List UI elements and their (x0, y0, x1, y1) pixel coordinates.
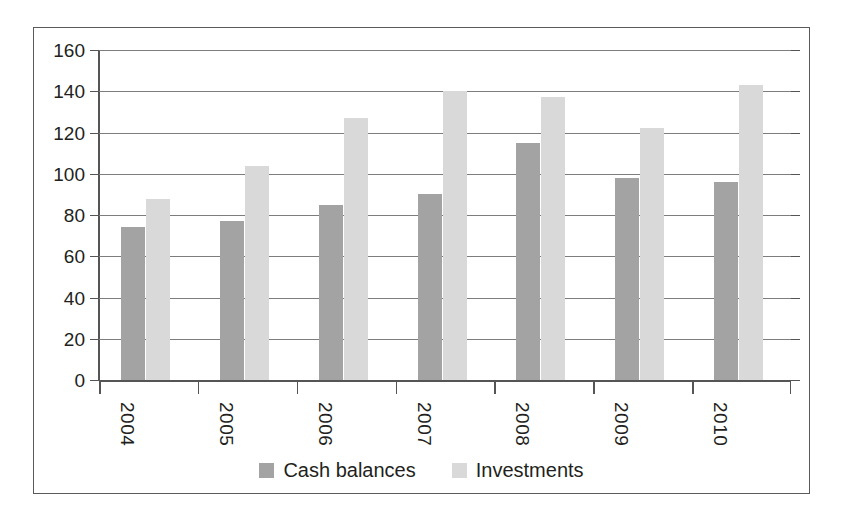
bar-investments-2005 (245, 166, 269, 381)
y-tick-mark-right (791, 174, 800, 175)
y-axis-tick-label: 80 (64, 206, 85, 225)
y-tick-mark-right (791, 215, 800, 216)
y-tick-mark (90, 256, 99, 257)
legend-swatch-icon (259, 463, 274, 478)
y-axis-tick-label: 100 (53, 164, 85, 183)
x-tick-mark (593, 380, 595, 394)
y-tick-mark (90, 50, 99, 51)
x-axis-tick-label-2007: 2007 (415, 402, 434, 446)
bar-investments-2008 (541, 97, 565, 380)
x-tick-mark (396, 380, 398, 394)
y-tick-mark (90, 91, 99, 92)
y-tick-mark (90, 339, 99, 340)
x-tick-mark (297, 380, 299, 394)
legend-label: Cash balances (283, 460, 415, 480)
y-axis-tick-label: 40 (64, 288, 85, 307)
y-tick-mark (90, 380, 99, 381)
y-axis-tick-label: 140 (53, 82, 85, 101)
x-axis-tick-label-2009: 2009 (612, 402, 631, 446)
x-tick-mark (494, 380, 496, 394)
bar-cash-balances-2010 (714, 182, 738, 380)
x-axis-ticks (99, 380, 791, 394)
y-axis-tick-label: 160 (53, 41, 85, 60)
bar-investments-2006 (344, 118, 368, 380)
legend-label: Investments (476, 460, 584, 480)
y-axis-tick-label: 20 (64, 329, 85, 348)
bar-chart: 020406080100120140160 Cash balancesInves… (34, 28, 809, 493)
bar-cash-balances-2007 (418, 194, 442, 380)
bar-cash-balances-2008 (516, 143, 540, 380)
y-axis-tick-label: 0 (74, 371, 85, 390)
y-tick-mark-right (791, 380, 800, 381)
y-axis-tick-label: 120 (53, 123, 85, 142)
bar-investments-2010 (739, 85, 763, 380)
x-tick-mark (790, 380, 792, 394)
x-axis-tick-label-2005: 2005 (217, 402, 236, 446)
chart-legend: Cash balancesInvestments (34, 460, 809, 480)
bar-cash-balances-2005 (220, 221, 244, 380)
gridline (99, 50, 791, 51)
bar-investments-2004 (146, 199, 170, 381)
y-tick-mark-right (791, 50, 800, 51)
y-tick-mark-right (791, 339, 800, 340)
legend-item-investments: Investments (452, 460, 584, 480)
y-tick-mark-right (791, 91, 800, 92)
y-axis-tick-label: 60 (64, 247, 85, 266)
x-axis-tick-label-2004: 2004 (118, 402, 137, 446)
x-tick-mark (99, 380, 101, 394)
chart-figure-frame: 020406080100120140160 Cash balancesInves… (33, 27, 810, 494)
legend-item-cash-balances: Cash balances (259, 460, 415, 480)
y-tick-mark (90, 298, 99, 299)
y-tick-mark-right (791, 133, 800, 134)
x-tick-mark (692, 380, 694, 394)
y-tick-mark (90, 133, 99, 134)
x-tick-mark (198, 380, 200, 394)
y-tick-mark (90, 174, 99, 175)
y-tick-mark-right (791, 256, 800, 257)
bar-cash-balances-2006 (319, 205, 343, 380)
x-axis-tick-label-2008: 2008 (513, 402, 532, 446)
plot-area: 020406080100120140160 (99, 50, 791, 380)
y-tick-mark (90, 215, 99, 216)
bar-investments-2009 (640, 128, 664, 380)
legend-swatch-icon (452, 463, 467, 478)
bar-investments-2007 (443, 91, 467, 380)
x-axis-tick-label-2006: 2006 (316, 402, 335, 446)
bar-cash-balances-2004 (121, 227, 145, 380)
bar-cash-balances-2009 (615, 178, 639, 380)
y-tick-mark-right (791, 298, 800, 299)
x-axis-tick-label-2010: 2010 (711, 402, 730, 446)
